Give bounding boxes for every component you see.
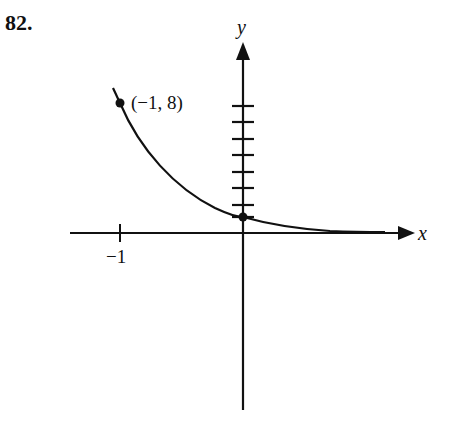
graph: (−1, 8) −1 x y (0, 0, 455, 422)
point-0-1 (239, 213, 248, 222)
x-tick-label-minus1: −1 (106, 246, 126, 267)
y-axis-label: y (235, 16, 246, 39)
point-label: (−1, 8) (131, 92, 183, 114)
x-axis-label: x (417, 222, 427, 244)
x-axis-arrow-icon (398, 226, 415, 240)
point-minus1-8 (116, 99, 125, 108)
y-axis-arrow-icon (236, 42, 250, 60)
y-axis (236, 42, 250, 410)
